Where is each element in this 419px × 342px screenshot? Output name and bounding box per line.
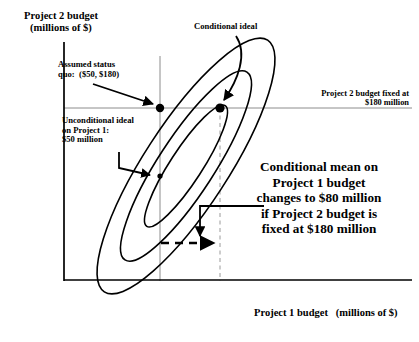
- x-axis-title: Project 1 budget (millions of $): [254, 307, 398, 319]
- y-axis-title-line2: (millions of $): [30, 22, 92, 33]
- project2-fixed-label: Project 2 budget fixed at $180 million: [321, 89, 409, 108]
- conditional-mean-label: Conditional mean on Project 1 budget cha…: [228, 159, 410, 237]
- conditional-ideal-label: Conditional ideal: [194, 22, 257, 32]
- unconditional-ideal-point: [157, 173, 162, 178]
- unconditional-ideal-label: Unconditional ideal on Project 1: $50 mi…: [62, 116, 134, 145]
- conditional-budget-diagram: Project 2 budget(millions of $) Project …: [0, 0, 419, 342]
- conditional-ideal-point: [215, 103, 224, 112]
- assumed-status-quo-point: [156, 104, 164, 112]
- assumed-status-quo-arrow: [93, 84, 153, 104]
- y-axis-title-line1: Project 2 budget: [24, 10, 98, 21]
- y-axis-title: Project 2 budget(millions of $): [24, 10, 98, 34]
- assumed-status-quo-label: Assumed status quo: ($50, $180): [58, 60, 119, 79]
- unconditional-ideal-arrow: [119, 152, 150, 175]
